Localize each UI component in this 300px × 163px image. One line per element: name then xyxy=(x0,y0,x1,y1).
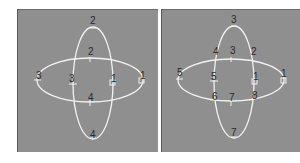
vertical-ellipse-left xyxy=(73,27,113,139)
vertex-label: 3 xyxy=(36,70,42,81)
vertex-label: 4 xyxy=(88,92,94,103)
vertex-label: 7 xyxy=(229,92,235,103)
vertex-label: 5 xyxy=(211,71,217,82)
diagram-canvas: 2 2 3 3 1 1 4 4 3 4 3 2 5 5 1 1 6 7 8 7 xyxy=(0,0,300,163)
vertex-label: 3 xyxy=(230,45,236,56)
vertex-label: 3 xyxy=(231,14,237,25)
left-labels: 2 2 3 3 1 1 4 4 xyxy=(36,15,146,140)
vertex-label: 7 xyxy=(231,127,237,138)
vertex-label: 2 xyxy=(88,46,94,57)
vertex-label: 1 xyxy=(140,70,146,81)
vertex-label: 1 xyxy=(253,71,259,82)
vertex-label: 8 xyxy=(252,90,258,101)
left-vertex-markers xyxy=(34,28,144,138)
vertex-label: 6 xyxy=(212,91,218,102)
right-labels: 3 4 3 2 5 5 1 1 6 7 8 7 xyxy=(177,14,287,138)
vertex-label: 1 xyxy=(281,68,287,79)
vertex-label: 4 xyxy=(213,46,219,57)
vertex-label: 5 xyxy=(177,67,183,78)
right-vertex-markers xyxy=(176,26,286,137)
vertex-label: 2 xyxy=(251,46,257,57)
vertex-label: 2 xyxy=(90,15,96,26)
vertical-ellipse-right xyxy=(214,26,254,138)
left-curves xyxy=(37,27,143,139)
vertex-label: 4 xyxy=(90,129,96,140)
right-curves xyxy=(178,26,284,138)
vertex-label: 1 xyxy=(111,73,117,84)
vertex-label: 3 xyxy=(69,73,75,84)
